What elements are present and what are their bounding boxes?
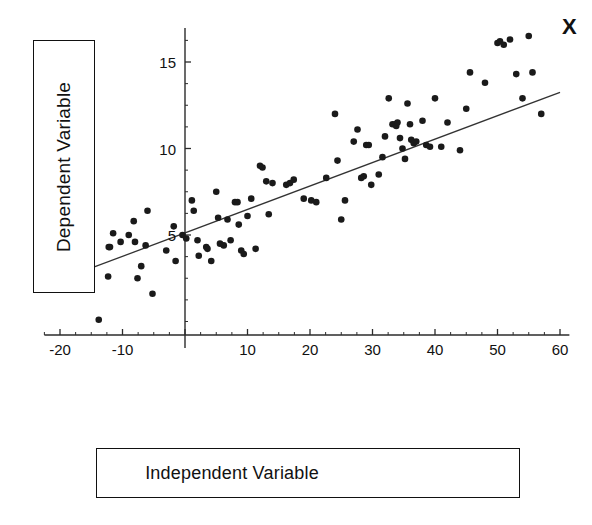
data-point <box>525 33 532 40</box>
trendline-layer <box>48 92 561 284</box>
x-tick-label-20: 20 <box>302 341 319 358</box>
x-axis-label-text: Independent Variable <box>145 463 319 484</box>
y-tick-label-15: 15 <box>159 54 176 71</box>
data-point <box>500 41 507 48</box>
data-point <box>427 143 434 150</box>
data-point <box>252 246 259 253</box>
data-point <box>342 197 349 204</box>
data-point <box>117 239 124 246</box>
data-point <box>224 216 231 223</box>
data-point <box>144 207 151 214</box>
data-point <box>215 214 222 221</box>
data-point <box>259 164 266 171</box>
data-point <box>194 237 201 244</box>
data-point <box>368 182 375 189</box>
data-point <box>394 119 401 126</box>
data-point <box>110 230 117 237</box>
data-point <box>350 138 357 145</box>
data-point <box>220 242 227 249</box>
data-point <box>313 199 320 206</box>
x-tick-label-30: 30 <box>364 341 381 358</box>
data-point <box>379 154 386 161</box>
data-point <box>204 246 211 253</box>
x-tick-label-10: 10 <box>239 341 256 358</box>
data-point <box>138 263 145 270</box>
x-tick-label--20: -20 <box>49 341 71 358</box>
data-point <box>189 197 196 204</box>
corner-x-marker: X <box>562 16 577 38</box>
data-point <box>332 111 339 118</box>
data-point <box>105 273 112 280</box>
data-point <box>444 119 451 126</box>
data-point <box>95 316 102 323</box>
data-point <box>354 126 361 133</box>
data-point <box>399 145 406 152</box>
data-point <box>132 239 139 246</box>
data-point <box>529 69 536 76</box>
data-point <box>457 147 464 154</box>
axes-layer <box>44 28 569 348</box>
data-point <box>269 180 276 187</box>
data-point <box>413 138 420 145</box>
data-point <box>265 211 272 218</box>
data-point <box>334 157 341 164</box>
data-point <box>213 188 220 195</box>
data-point <box>263 178 270 185</box>
regression-trendline <box>48 92 561 284</box>
data-point <box>513 71 520 78</box>
data-point <box>404 100 411 107</box>
y-tick-label-10: 10 <box>159 140 176 157</box>
data-point <box>142 242 149 249</box>
y-tick-label-5: 5 <box>168 227 176 244</box>
scatter-plot-figure: -20-1010203040506051015 Dependent Variab… <box>0 0 592 525</box>
data-point <box>382 133 389 140</box>
data-points-layer <box>88 33 545 323</box>
data-point <box>149 291 156 298</box>
x-tick-label-60: 60 <box>552 341 569 358</box>
x-axis-label-box: Independent Variable <box>96 448 520 498</box>
data-point <box>163 247 170 254</box>
data-point <box>125 232 132 239</box>
data-point <box>365 142 372 149</box>
data-point <box>538 111 545 118</box>
data-point <box>467 69 474 76</box>
data-point <box>482 79 489 86</box>
data-point <box>385 95 392 102</box>
data-point <box>360 173 367 180</box>
x-tick-label-50: 50 <box>489 341 506 358</box>
y-axis-label-box: Dependent Variable <box>33 40 95 293</box>
data-point <box>208 258 215 265</box>
y-axis-label-text: Dependent Variable <box>53 81 75 251</box>
data-point <box>338 216 345 223</box>
data-point <box>402 156 409 163</box>
data-point <box>290 176 297 183</box>
data-point <box>190 207 197 214</box>
data-point <box>183 235 190 242</box>
data-point <box>300 195 307 202</box>
data-point <box>234 199 241 206</box>
data-point <box>172 258 179 265</box>
data-point <box>419 118 426 125</box>
data-point <box>463 105 470 112</box>
data-point <box>134 275 141 282</box>
data-point <box>130 218 137 225</box>
data-point <box>507 36 514 43</box>
data-point <box>244 213 251 220</box>
data-point <box>432 95 439 102</box>
x-tick-label-40: 40 <box>427 341 444 358</box>
data-point <box>227 237 234 244</box>
data-point <box>195 252 202 259</box>
x-tick-label--10: -10 <box>112 341 134 358</box>
data-point <box>375 171 382 178</box>
data-point <box>397 135 404 142</box>
data-point <box>235 221 242 228</box>
data-point <box>407 121 414 128</box>
data-point <box>323 175 330 182</box>
data-point <box>519 95 526 102</box>
data-point <box>248 195 255 202</box>
data-point <box>240 251 247 258</box>
data-point <box>107 244 114 251</box>
data-point <box>438 143 445 150</box>
